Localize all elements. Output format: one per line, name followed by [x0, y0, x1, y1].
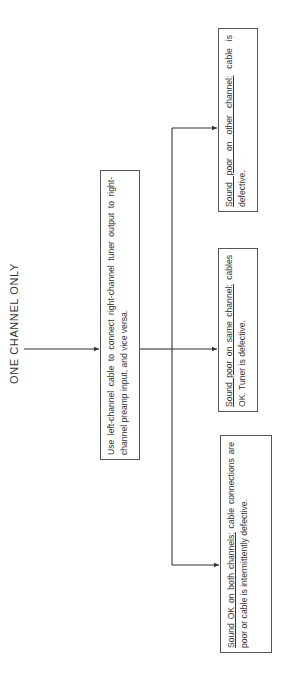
outcome-text: Sound poor on same channel: cables OK. T… [219, 249, 259, 413]
main-step-text: Use left-channel cable to connect right-… [101, 171, 141, 461]
outcome-box-other-channel: Sound poor on other channel: cable is de… [218, 28, 258, 212]
outcome-box-both-channels: Sound OK on both channels: cable connect… [220, 435, 272, 653]
outcome-condition: Sound poor on same channel: [224, 284, 234, 407]
flowchart: ONE CHANNEL ONLY Use left-channel cable … [0, 0, 287, 678]
outcome-box-same-channel: Sound poor on same channel: cables OK. T… [218, 248, 258, 412]
diagram-title: ONE CHANNEL ONLY [8, 284, 20, 384]
main-step-box: Use left-channel cable to connect right-… [100, 170, 140, 460]
outcome-condition: Sound OK on both channels: [226, 532, 236, 648]
outcome-text: Sound poor on other channel: cable is de… [219, 29, 259, 213]
outcome-text: Sound OK on both channels: cable connect… [221, 436, 273, 654]
outcome-condition: Sound poor on other channel: [224, 76, 234, 207]
